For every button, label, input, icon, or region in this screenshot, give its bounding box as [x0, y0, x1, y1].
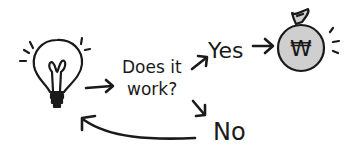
arrow-to-no-icon — [193, 101, 205, 116]
question-line-1: Does it — [122, 57, 182, 77]
arrow-to-yes-icon — [192, 56, 207, 69]
question-line-2: work? — [127, 79, 177, 99]
flow-diagram: Does it work? Yes ₩ — [0, 0, 355, 159]
no-label: No — [213, 118, 246, 146]
lightbulb-icon — [20, 38, 90, 107]
arrow-to-question-icon — [86, 80, 113, 92]
arrow-back-to-idea-icon — [82, 116, 195, 139]
yes-label: Yes — [207, 38, 244, 63]
arrow-to-money-icon — [253, 39, 273, 53]
currency-symbol: ₩ — [290, 36, 312, 61]
